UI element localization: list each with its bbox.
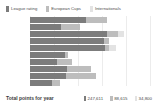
stacked-bar-chart: League rating European Cups Internationa… bbox=[0, 0, 154, 106]
legend-swatch-icon bbox=[6, 6, 9, 12]
legend-swatch-icon bbox=[46, 6, 49, 12]
bar-row[interactable] bbox=[0, 24, 154, 30]
bar-stack bbox=[30, 31, 154, 37]
bar-row[interactable] bbox=[0, 31, 154, 37]
bar-stack bbox=[30, 45, 154, 51]
bar-segment-2[interactable] bbox=[66, 73, 96, 79]
total-item-internationals: 34,800 bbox=[135, 96, 152, 101]
bar-segment-1[interactable] bbox=[30, 59, 57, 65]
total-item-league-rating: 247,611 bbox=[84, 96, 104, 101]
bar-stack bbox=[30, 17, 154, 23]
total-value: 34,800 bbox=[139, 96, 152, 101]
bar-stack bbox=[30, 66, 154, 72]
bar-row[interactable] bbox=[0, 73, 154, 79]
bar-segment-3[interactable] bbox=[118, 31, 124, 37]
legend-label: Internationals bbox=[95, 6, 121, 12]
bar-row[interactable] bbox=[0, 17, 154, 23]
footer-title: Total points for year bbox=[6, 95, 54, 101]
legend-label: League rating bbox=[11, 6, 37, 12]
bar-segment-2[interactable] bbox=[86, 17, 107, 23]
chart-footer: Total points for year 247,611 88,615 34,… bbox=[0, 91, 154, 105]
bar-segment-2[interactable] bbox=[65, 52, 68, 58]
total-swatch-icon bbox=[110, 96, 113, 101]
bar-segment-2[interactable] bbox=[104, 38, 109, 44]
bar-segment-1[interactable] bbox=[30, 80, 52, 86]
bar-segment-2[interactable] bbox=[57, 59, 72, 65]
bar-segment-1[interactable] bbox=[30, 73, 66, 79]
total-value: 88,615 bbox=[114, 96, 127, 101]
bar-stack bbox=[30, 52, 154, 58]
total-value: 247,611 bbox=[88, 96, 104, 101]
bar-row[interactable] bbox=[0, 52, 154, 58]
bar-segment-1[interactable] bbox=[30, 45, 105, 51]
bar-segment-1[interactable] bbox=[30, 66, 67, 72]
bar-stack bbox=[30, 24, 154, 30]
bar-segment-2[interactable] bbox=[67, 66, 91, 72]
bar-segment-1[interactable] bbox=[30, 52, 65, 58]
legend-swatch-icon bbox=[90, 6, 93, 12]
total-item-european-cups: 88,615 bbox=[110, 96, 127, 101]
bar-segment-1[interactable] bbox=[30, 24, 61, 30]
bar-row[interactable] bbox=[0, 45, 154, 51]
legend-item-league-rating[interactable]: League rating bbox=[6, 6, 37, 12]
bar-segment-2[interactable] bbox=[107, 31, 118, 37]
legend-label: European Cups bbox=[51, 6, 81, 12]
bar-stack bbox=[30, 73, 154, 79]
plot-area bbox=[0, 16, 154, 86]
bar-row[interactable] bbox=[0, 38, 154, 44]
bar-row[interactable] bbox=[0, 80, 154, 86]
total-swatch-icon bbox=[135, 96, 138, 101]
bar-row[interactable] bbox=[0, 66, 154, 72]
bar-segment-3[interactable] bbox=[109, 45, 116, 51]
bar-segment-1[interactable] bbox=[30, 17, 86, 23]
bar-row[interactable] bbox=[0, 59, 154, 65]
bar-segment-1[interactable] bbox=[30, 38, 104, 44]
bar-stack bbox=[30, 80, 154, 86]
footer-totals: 247,611 88,615 34,800 bbox=[84, 96, 152, 101]
bar-segment-2[interactable] bbox=[52, 80, 60, 86]
chart-legend: League rating European Cups Internationa… bbox=[0, 0, 154, 16]
bar-rows bbox=[0, 16, 154, 86]
bar-stack bbox=[30, 59, 154, 65]
bar-segment-1[interactable] bbox=[30, 31, 107, 37]
total-swatch-icon bbox=[84, 96, 87, 101]
legend-item-internationals[interactable]: Internationals bbox=[90, 6, 121, 12]
legend-item-european-cups[interactable]: European Cups bbox=[46, 6, 81, 12]
bar-segment-2[interactable] bbox=[61, 24, 80, 30]
bar-stack bbox=[30, 38, 154, 44]
